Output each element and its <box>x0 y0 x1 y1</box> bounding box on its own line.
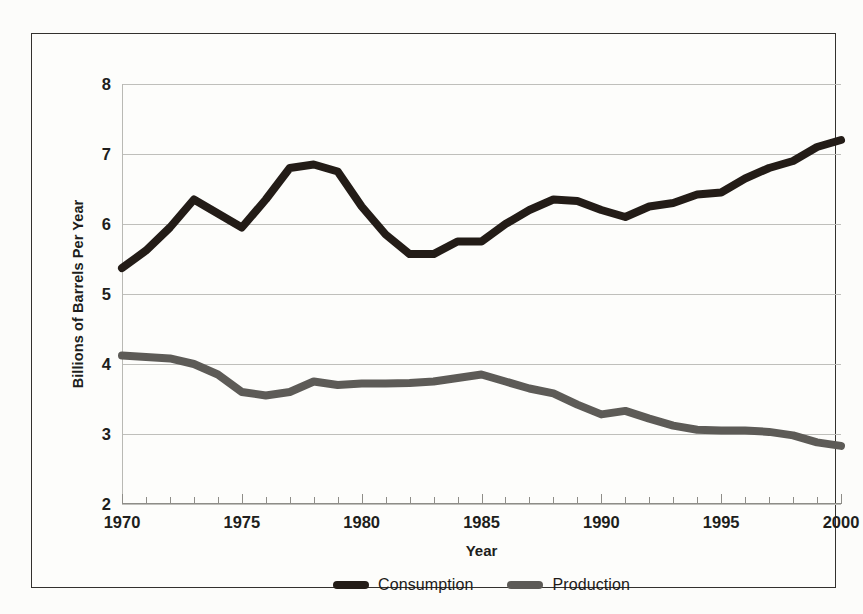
y-axis-tick-label: 8 <box>102 75 111 94</box>
chart-legend: ConsumptionProduction <box>122 576 841 594</box>
x-axis-title: Year <box>122 542 841 559</box>
chart-frame: Billions of Barrels Per Year 8765432 197… <box>31 33 836 588</box>
x-axis-major-tick <box>841 494 842 504</box>
y-axis-tick-label: 7 <box>102 145 111 164</box>
gridline-y <box>122 504 841 505</box>
x-axis-tick-label: 1985 <box>463 513 500 532</box>
x-axis-tick-label: 1980 <box>343 513 380 532</box>
legend-item-consumption[interactable]: Consumption <box>333 576 473 594</box>
y-axis-tick-label: 4 <box>102 355 111 374</box>
x-axis-tick-label: 1995 <box>703 513 740 532</box>
series-lines <box>122 84 841 504</box>
page-background: Billions of Barrels Per Year 8765432 197… <box>0 0 863 614</box>
plot-area: 8765432 1970197519801985199019952000 <box>122 84 841 504</box>
x-axis-tick-label: 2000 <box>823 513 860 532</box>
y-axis-tick-label: 5 <box>102 285 111 304</box>
y-axis-tick-label: 3 <box>102 425 111 444</box>
y-axis-title: Billions of Barrels Per Year <box>68 84 88 504</box>
legend-swatch-icon <box>507 581 543 589</box>
x-axis-tick-label: 1990 <box>583 513 620 532</box>
y-axis-title-text: Billions of Barrels Per Year <box>70 200 86 389</box>
x-axis-tick-label: 1975 <box>223 513 260 532</box>
series-line-consumption <box>122 140 841 268</box>
legend-swatch-icon <box>333 581 369 589</box>
legend-item-production[interactable]: Production <box>507 576 630 594</box>
legend-label: Production <box>552 576 630 594</box>
legend-label: Consumption <box>378 576 473 594</box>
y-axis-tick-label: 6 <box>102 215 111 234</box>
x-axis-tick-label: 1970 <box>104 513 141 532</box>
series-line-production <box>122 356 841 446</box>
y-axis-tick-label: 2 <box>102 495 111 514</box>
